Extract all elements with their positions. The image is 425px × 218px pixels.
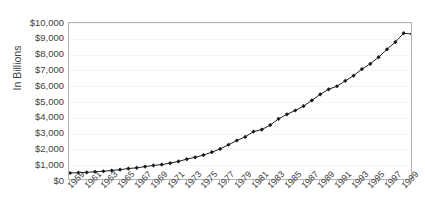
- data-point-marker: [118, 168, 122, 172]
- data-point-marker: [201, 153, 205, 157]
- y-axis-tick-label: $0: [18, 176, 64, 186]
- series-line: [70, 33, 412, 173]
- y-axis-tick-labels: $10,000$9,000$8,000$7,000$6,000$5,000$4,…: [18, 22, 64, 180]
- data-point-marker: [235, 138, 239, 142]
- data-point-marker: [176, 159, 180, 163]
- data-point-marker: [410, 32, 412, 36]
- data-point-marker: [135, 166, 139, 170]
- data-point-marker: [143, 165, 147, 169]
- y-axis-tick-label: $4,000: [18, 112, 64, 122]
- data-point-marker: [168, 161, 172, 165]
- y-axis-tick-label: $2,000: [18, 144, 64, 154]
- data-point-marker: [226, 143, 230, 147]
- data-point-marker: [218, 147, 222, 151]
- y-axis-tick-label: $10,000: [18, 18, 64, 28]
- data-point-marker: [193, 155, 197, 159]
- data-point-marker: [151, 163, 155, 167]
- y-axis-tick-label: $3,000: [18, 128, 64, 138]
- y-axis-tick-label: $1,000: [18, 160, 64, 170]
- data-point-marker: [101, 169, 105, 173]
- y-axis-tick-label: $9,000: [18, 33, 64, 43]
- y-axis-tick-label: $7,000: [18, 65, 64, 75]
- x-axis-tick-labels: 1959196119631965196719691971197319751977…: [68, 184, 412, 218]
- y-axis-tick-label: $5,000: [18, 97, 64, 107]
- line-chart: In Billions $10,000$9,000$8,000$7,000$6,…: [0, 0, 425, 218]
- data-point-marker: [160, 162, 164, 166]
- plot-area: [68, 22, 412, 180]
- data-point-marker: [185, 157, 189, 161]
- data-point-marker: [260, 127, 264, 131]
- data-point-marker: [85, 170, 89, 174]
- y-axis-tick-label: $8,000: [18, 49, 64, 59]
- data-point-marker: [210, 150, 214, 154]
- data-point-marker: [69, 171, 72, 175]
- data-point-marker: [293, 108, 297, 112]
- data-point-marker: [285, 112, 289, 116]
- y-axis-tick-label: $6,000: [18, 81, 64, 91]
- data-series-line: [69, 23, 412, 180]
